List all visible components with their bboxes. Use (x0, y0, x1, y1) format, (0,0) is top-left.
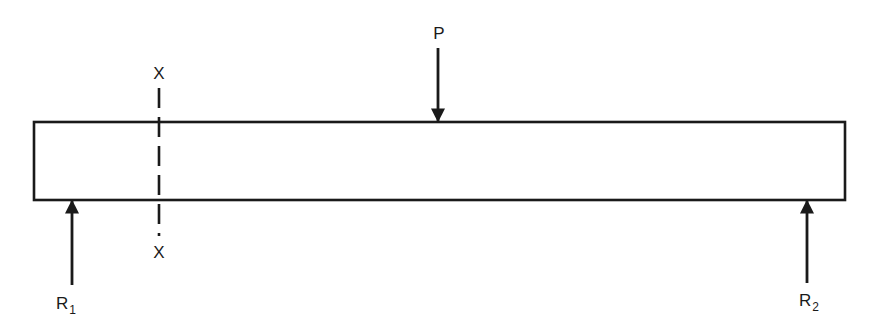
section-line-x-x: X X (153, 64, 164, 262)
beam-diagram: X X P R1 R2 (0, 0, 876, 331)
reaction-r1-label: R1 (56, 294, 76, 317)
section-label-bottom: X (153, 243, 164, 262)
load-p: P (433, 24, 444, 121)
reaction-r1: R1 (56, 201, 76, 317)
section-label-top: X (153, 64, 164, 83)
load-label: P (433, 24, 444, 43)
reaction-r2: R2 (799, 201, 819, 314)
reaction-r2-label: R2 (799, 291, 819, 314)
beam (34, 122, 845, 200)
